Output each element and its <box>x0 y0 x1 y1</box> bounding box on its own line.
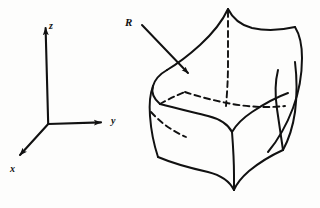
axis-label-x: x <box>10 164 15 174</box>
y-axis-line <box>48 122 101 124</box>
region-upper-left-lobe <box>152 70 167 104</box>
axis-label-z: z <box>49 21 53 31</box>
region-bottom-front-curve <box>158 157 234 190</box>
region-center-vertical-fold <box>232 132 234 190</box>
region-bottom-notch <box>234 150 283 190</box>
figure-drawing <box>0 0 320 208</box>
z-axis-line <box>46 28 49 124</box>
pointer-arrow-line <box>142 25 188 73</box>
region-pointer <box>142 25 188 73</box>
hidden-center-vertical <box>226 11 228 106</box>
region-top-back-ridge <box>228 9 295 30</box>
hidden-left-arc <box>160 92 185 104</box>
coordinate-axes <box>20 28 101 155</box>
axis-label-y: y <box>111 116 115 126</box>
hidden-lower-left-arc <box>151 112 186 137</box>
x-axis-line <box>20 124 48 155</box>
region-label-r: R <box>125 17 132 28</box>
figure-canvas: z y x R <box>0 0 320 208</box>
solid-region-R <box>150 9 302 190</box>
hidden-back-horizontal <box>185 92 285 107</box>
